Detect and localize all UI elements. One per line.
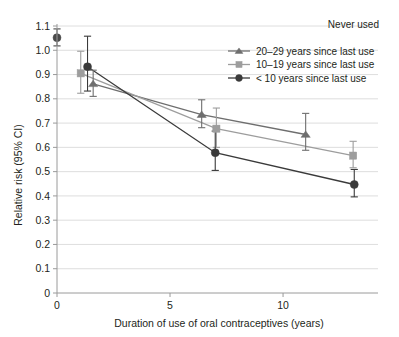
- marker-square: [236, 61, 242, 67]
- relative-risk-line-chart: 00.10.20.30.40.50.60.70.80.91.01.1 0510 …: [0, 0, 399, 337]
- marker-square: [77, 70, 84, 77]
- y-tick-label: 0.3: [35, 214, 50, 226]
- marker-circle: [211, 149, 219, 157]
- y-tick-label: 0.5: [35, 165, 50, 177]
- legend-item-label: < 10 years since last use: [256, 73, 367, 84]
- y-tick-label: 0.7: [35, 117, 50, 129]
- y-tick-label: 0: [44, 287, 50, 299]
- x-axis-title: Duration of use of oral contraceptives (…: [114, 317, 324, 329]
- legend-item-label: 20–29 years since last use: [256, 46, 375, 57]
- chart-container: 00.10.20.30.40.50.60.70.80.91.01.1 0510 …: [0, 0, 399, 337]
- marker-circle: [84, 63, 92, 71]
- y-tick-label: 0.2: [35, 238, 50, 250]
- x-tick-label: 0: [54, 299, 60, 311]
- marker-circle: [350, 181, 358, 189]
- marker-square: [350, 152, 357, 159]
- y-tick-label: 0.1: [35, 262, 50, 274]
- marker-circle: [236, 75, 243, 82]
- y-tick-label: 0.9: [35, 68, 50, 80]
- y-tick-label: 0.4: [35, 190, 50, 202]
- legend-item-label: 10–19 years since last use: [256, 59, 375, 70]
- x-tick-label: 10: [277, 299, 289, 311]
- y-tick-label: 0.8: [35, 92, 50, 104]
- marker-square: [213, 125, 220, 132]
- never-used-annotation: Never used: [328, 19, 379, 30]
- y-tick-label: 1.0: [35, 44, 50, 56]
- y-axis-title: Relative risk (95% CI): [12, 124, 24, 226]
- x-tick-label: 5: [167, 299, 173, 311]
- y-tick-label: 0.6: [35, 141, 50, 153]
- y-tick-label: 1.1: [35, 20, 50, 32]
